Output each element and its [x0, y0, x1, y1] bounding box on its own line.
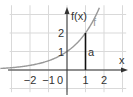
curve-label: f: [93, 16, 97, 28]
x-tick-label: 1: [82, 74, 88, 86]
x-tick-label: −1: [42, 74, 55, 86]
tick-labels: −2−11212: [24, 27, 107, 86]
origin-label: 0: [57, 74, 63, 86]
y-axis-label: f(x): [71, 10, 87, 22]
y-tick-label: 1: [58, 46, 64, 58]
y-tick-label: 2: [58, 27, 64, 39]
segment-label: a: [88, 46, 95, 58]
x-tick-label: −2: [24, 74, 37, 86]
x-axis-label: x: [119, 54, 125, 66]
y-axis-arrow-icon: [65, 7, 70, 14]
x-axis-arrow-icon: [121, 68, 128, 73]
function-graph: −2−11212 f(x) x f a 0: [0, 0, 133, 97]
x-tick-label: 2: [101, 74, 107, 86]
